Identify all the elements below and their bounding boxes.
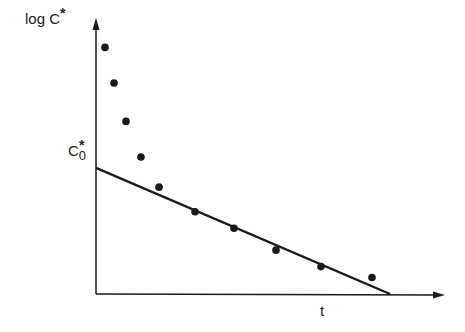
axes xyxy=(93,18,446,299)
c0-base: C xyxy=(68,142,79,159)
fit-line xyxy=(96,168,390,294)
fit-line-segment xyxy=(96,168,390,294)
plot-area xyxy=(0,0,465,332)
data-point xyxy=(137,153,145,161)
x-axis-label-text: t xyxy=(320,302,324,319)
x-axis-label: t xyxy=(320,302,324,319)
data-point xyxy=(155,183,163,191)
c0-label: C0* xyxy=(68,142,85,159)
x-axis xyxy=(96,294,436,295)
y-axis-label: log C* xyxy=(25,10,65,27)
data-point xyxy=(272,246,280,254)
data-point xyxy=(230,224,238,232)
data-point xyxy=(122,118,130,126)
data-point xyxy=(110,79,118,87)
data-point xyxy=(191,208,199,216)
data-point xyxy=(317,263,325,271)
y-axis-label-text: log C xyxy=(25,10,60,27)
y-axis-arrow-icon xyxy=(93,18,100,30)
data-point xyxy=(368,274,376,282)
data-point xyxy=(101,44,109,52)
c0-asterisk: * xyxy=(79,137,84,153)
data-points xyxy=(101,44,376,282)
asterisk: * xyxy=(60,5,65,21)
x-axis-arrow-icon xyxy=(433,292,445,299)
